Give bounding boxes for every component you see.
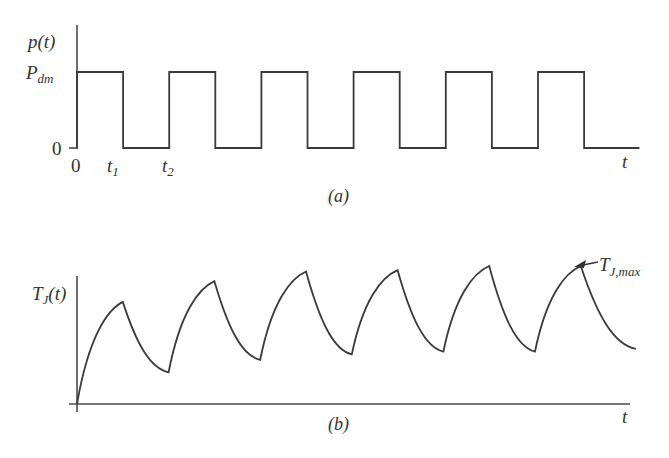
diagram: p(t) Pdm 0 0 t1 t2 t (a) TJ(t) t (b) TJ,… xyxy=(0,0,669,458)
panel-a-x-label: t xyxy=(622,151,628,172)
x-tick-t2: t2 xyxy=(162,155,174,179)
pulse-train-line xyxy=(77,72,639,148)
annotation-arrowhead-icon xyxy=(574,260,586,268)
x-tick-t1: t1 xyxy=(107,155,119,179)
panel-a: p(t) Pdm 0 0 t1 t2 t (a) xyxy=(25,25,639,207)
annotation-label: TJ,max xyxy=(599,254,640,279)
panel-a-y-label: p(t) xyxy=(26,31,55,53)
panel-b: TJ(t) t (b) TJ,max xyxy=(32,254,640,435)
junction-temperature-curve xyxy=(77,266,636,404)
y-tick-zero: 0 xyxy=(52,138,62,159)
panel-b-caption: (b) xyxy=(328,414,349,435)
panel-b-x-label: t xyxy=(622,406,628,427)
panel-b-y-label: TJ(t) xyxy=(32,283,66,307)
panel-a-caption: (a) xyxy=(328,186,349,207)
x-tick-zero: 0 xyxy=(71,155,81,176)
y-tick-pdm: Pdm xyxy=(25,62,54,86)
